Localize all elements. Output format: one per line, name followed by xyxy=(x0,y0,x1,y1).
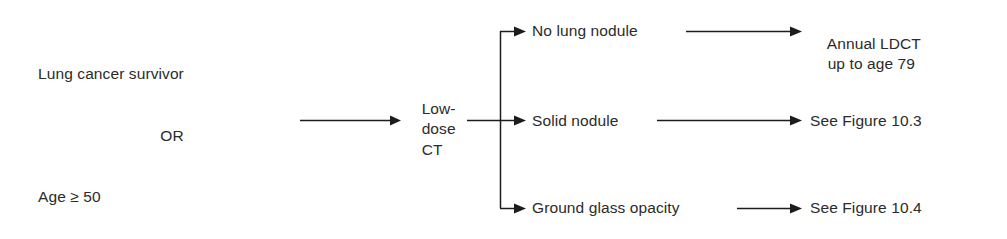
arrow-outcome-0 xyxy=(686,27,802,37)
outcome-0-line-1: Annual LDCT xyxy=(827,35,921,52)
branch-label-solid-nodule: Solid nodule xyxy=(532,111,619,132)
node-ldct-line-3: CT xyxy=(422,141,443,158)
node-ldct-line-2: dose xyxy=(422,120,456,137)
lung-cancer-screening-flowchart: Lung cancer survivor OR Age ≥ 50 ≥ 20 pa… xyxy=(0,0,1007,239)
criteria-operator-or: OR xyxy=(38,126,306,147)
outcome-annual-ldct: Annual LDCT up to age 79 xyxy=(810,13,921,95)
arrow-criteria-to-ldct xyxy=(300,116,401,126)
criteria-line-survivor: Lung cancer survivor xyxy=(38,64,306,85)
node-ldct-line-1: Low- xyxy=(422,100,456,117)
outcome-see-figure-10-4: See Figure 10.4 xyxy=(810,198,922,219)
arrow-branch-0 xyxy=(500,27,526,37)
arrow-branch-2 xyxy=(500,204,526,214)
arrow-branch-1 xyxy=(500,116,526,126)
outcome-see-figure-10-3: See Figure 10.3 xyxy=(810,111,922,132)
node-low-dose-ct: Low- dose CT xyxy=(404,78,460,181)
arrow-outcome-2 xyxy=(737,204,802,214)
criteria-line-age: Age ≥ 50 xyxy=(38,187,306,208)
eligibility-criteria-block: Lung cancer survivor OR Age ≥ 50 ≥ 20 pa… xyxy=(38,23,306,239)
branch-label-ground-glass-opacity: Ground glass opacity xyxy=(532,198,680,219)
arrow-outcome-1 xyxy=(657,116,802,126)
branch-label-no-lung-nodule: No lung nodule xyxy=(532,21,638,42)
outcome-0-line-2: up to age 79 xyxy=(828,55,915,72)
